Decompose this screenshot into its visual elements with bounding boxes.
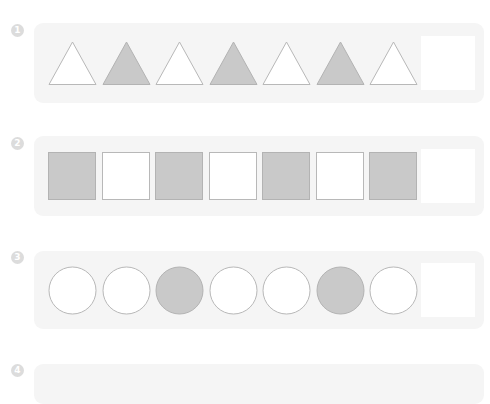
circle-shape-white <box>262 266 311 315</box>
circle-shape-white <box>102 266 151 315</box>
square-shape-gray <box>369 152 418 201</box>
square-shape-gray <box>48 152 97 201</box>
problem-panel-4 <box>34 364 484 404</box>
problem-number-badge-4: 4 <box>11 364 24 377</box>
circle-shape-white <box>369 266 418 315</box>
circle-shape-gray <box>155 266 204 315</box>
triangle-shape-white <box>262 41 311 86</box>
square-shape-white <box>102 152 151 201</box>
triangle-shape-white <box>155 41 204 86</box>
triangle-shape-gray <box>209 41 258 86</box>
problem-panel-3 <box>34 251 484 329</box>
square-shape-gray <box>155 152 204 201</box>
square-shape-white <box>209 152 258 201</box>
triangle-shape-white <box>369 41 418 86</box>
answer-box-3[interactable] <box>421 263 475 317</box>
square-shape-white <box>316 152 365 201</box>
problem-panel-1 <box>34 23 484 103</box>
triangle-shape-gray <box>316 41 365 86</box>
square-shape-gray <box>262 152 311 201</box>
answer-box-1[interactable] <box>421 36 475 90</box>
problem-number-badge-1: 1 <box>11 24 24 37</box>
circle-shape-gray <box>316 266 365 315</box>
circle-shape-white <box>209 266 258 315</box>
problem-number-badge-2: 2 <box>11 137 24 150</box>
answer-box-2[interactable] <box>421 149 475 203</box>
problem-panel-2 <box>34 136 484 216</box>
triangle-shape-white <box>48 41 97 86</box>
problem-number-badge-3: 3 <box>11 251 24 264</box>
circle-shape-white <box>48 266 97 315</box>
triangle-shape-gray <box>102 41 151 86</box>
